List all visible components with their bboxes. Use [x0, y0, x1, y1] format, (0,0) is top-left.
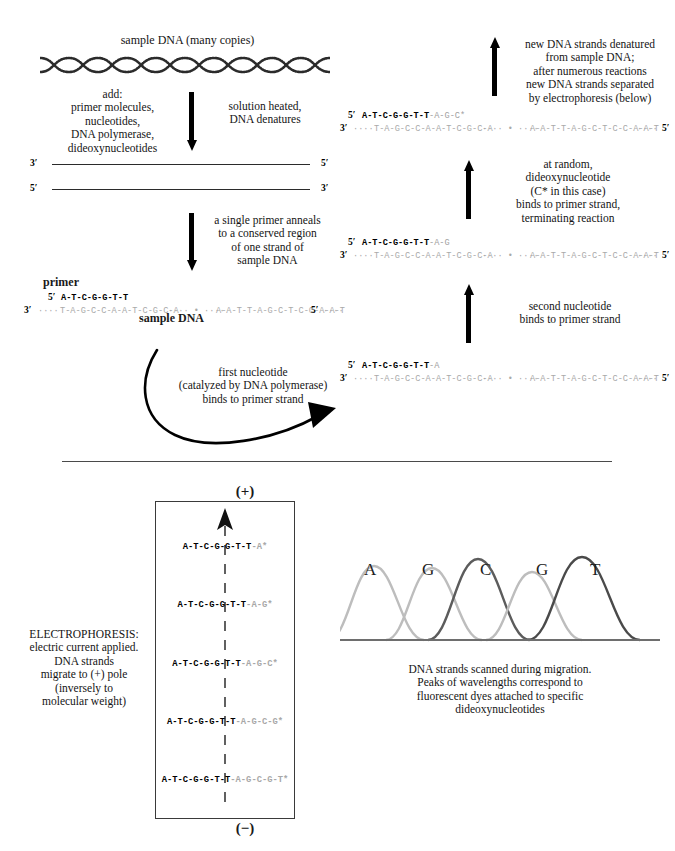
- gel-band: A-T-C-G-G-T-T-A-G-C*: [156, 659, 294, 669]
- step-second-nucleotide: 5′ A-T-C-G-G-T-T-A-G 3′ ···· T-A-G-C-C-A…: [340, 237, 670, 265]
- step3-three-prime: 3′: [340, 123, 347, 133]
- template-five-prime: 5′: [311, 305, 318, 315]
- step2-three-prime: 3′: [340, 250, 347, 260]
- first-nucleotide-label: first nucleotide (catalyzed by DNA polym…: [168, 366, 338, 406]
- step1-template-left: T-A-G-C-C-A-A-T-C-G-C-A: [374, 374, 493, 385]
- gel-band: A-T-C-G-G-T-T-A-G-C-G*: [156, 717, 294, 727]
- step3-new-strand: A-T-C-G-G-T-T-A-G-C*: [362, 111, 465, 122]
- sample-dna-label: sample DNA: [139, 311, 204, 326]
- chromatogram: [340, 552, 660, 652]
- gel-band-primer: A-T-C-G-G-T-T: [167, 717, 236, 727]
- peak-label-c: C: [480, 560, 491, 580]
- strand-top-right-end: 5′: [321, 158, 328, 168]
- step3-template-five-prime: 5′: [662, 123, 669, 133]
- add-reagents-label: add: primer molecules, nucleotides, DNA …: [35, 88, 190, 155]
- arrow-denature-down: [186, 92, 197, 151]
- second-nucleotide-label: second nucleotide binds to primer strand: [490, 300, 650, 327]
- dideoxynucleotide-label: at random, dideoxynucleotide (C* in this…: [482, 158, 654, 225]
- arrow-anneal-down: [186, 213, 197, 271]
- gel-band: A-T-C-G-G-T-T-A*: [156, 542, 294, 552]
- strand-top-left-end: 3′: [30, 158, 37, 168]
- primer-anneal-label: a single primer anneals to a conserved r…: [200, 214, 335, 268]
- step2-template-dots-left: ····: [353, 251, 374, 262]
- primer-sequence: A-T-C-G-G-T-T: [61, 293, 128, 304]
- gel-band: A-T-C-G-G-T-T-A-G*: [156, 600, 294, 610]
- pole-negative-label: (−): [190, 820, 300, 837]
- strand-bottom-left-end: 5′: [30, 183, 37, 193]
- pole-positive-label: (+): [190, 483, 300, 500]
- step3-template-left: T-A-G-C-C-A-A-T-C-G-C-A: [374, 124, 493, 135]
- peak-c: [428, 559, 530, 640]
- step2-template-dots-right: ····: [637, 251, 658, 262]
- peak-a: [340, 566, 424, 640]
- step2-new-strand: A-T-C-G-G-T-T-A-G: [362, 238, 450, 249]
- gel-band-primer: A-T-C-G-G-T-T: [183, 542, 252, 552]
- chromatogram-svg: [340, 552, 660, 652]
- peak-label-g1: G: [422, 560, 434, 580]
- step1-template-five-prime: 5′: [662, 373, 669, 383]
- gel-box: A-T-C-G-G-T-T-A* A-T-C-G-G-T-T-A-G* A-T-…: [155, 501, 295, 819]
- gel-band: A-T-C-G-G-T-T-A-G-C-G-T*: [156, 775, 294, 785]
- template-three-prime: 3′: [24, 305, 31, 315]
- denatured-strands-label: new DNA strands denatured from sample DN…: [505, 38, 675, 105]
- step1-template-dots-left: ····: [353, 374, 374, 385]
- gel-band-primer: A-T-C-G-G-T-T: [172, 659, 241, 669]
- step-first-nucleotide: 5′ A-T-C-G-G-T-T-A 3′ ···· T-A-G-C-C-A-A…: [340, 360, 670, 388]
- gel-band-primer: A-T-C-G-G-T-T: [177, 600, 246, 610]
- arrow-denatured-up: [489, 37, 500, 96]
- solution-heated-label: solution heated, DNA denatures: [200, 100, 330, 127]
- sample-dna-title: sample DNA (many copies): [60, 34, 315, 47]
- gel-band-tail: -A-G-C-G*: [236, 717, 284, 727]
- template-dots-right: ····: [323, 306, 344, 317]
- step1-three-prime: 3′: [340, 373, 347, 383]
- peak-label-t: T: [590, 560, 600, 580]
- peak-label-a: A: [364, 560, 376, 580]
- strand-bottom-right-end: 3′: [321, 183, 328, 193]
- step1-five-prime: 5′: [348, 360, 355, 370]
- gel-band-primer: A-T-C-G-G-T-T: [162, 775, 231, 785]
- arrow-second-nucleotide-up: [463, 284, 474, 343]
- step3-template-dots-left: ····: [353, 124, 374, 135]
- template-dots-left: ····: [38, 306, 59, 317]
- step3-template-dots-right: ····: [637, 124, 658, 135]
- step-terminated: 5′ A-T-C-G-G-T-T-A-G-C* 3′ ···· T-A-G-C-…: [340, 110, 670, 138]
- gel-band-tail: -A*: [251, 542, 267, 552]
- step1-template-dots-right: ····: [637, 374, 658, 385]
- step2-template-left: T-A-G-C-C-A-A-T-C-G-C-A: [374, 251, 493, 262]
- electrophoresis-label: ELECTROPHORESIS: electric current applie…: [14, 628, 154, 708]
- primer-five-prime: 5′: [48, 292, 55, 302]
- peak-g2: [486, 572, 582, 640]
- gel-band-tail: -A-G-C*: [241, 659, 278, 669]
- step1-new-strand: A-T-C-G-G-T-T-A: [362, 361, 439, 372]
- scan-caption: DNA strands scanned during migration. Pe…: [360, 663, 640, 717]
- gel-band-tail: -A-G-C-G-T*: [230, 775, 288, 785]
- peak-label-g2: G: [536, 560, 548, 580]
- section-divider: [62, 461, 612, 462]
- step3-five-prime: 5′: [348, 110, 355, 120]
- dna-double-helix: [40, 52, 330, 78]
- step2-template-five-prime: 5′: [662, 250, 669, 260]
- arrow-dideoxy-up: [463, 160, 474, 219]
- primer-label: primer: [43, 275, 79, 290]
- gel-band-tail: -A-G*: [246, 600, 272, 610]
- step2-five-prime: 5′: [348, 237, 355, 247]
